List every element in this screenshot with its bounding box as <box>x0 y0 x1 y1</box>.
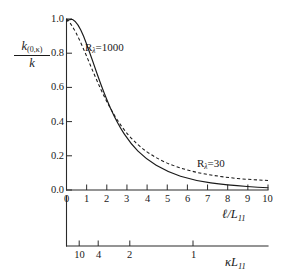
x-tick-label-10: 10 <box>258 194 277 205</box>
x-tick-label-8: 8 <box>219 194 236 205</box>
secondary-axis-ticks <box>79 241 193 247</box>
y-tick-label-1-0: 1.0 <box>38 14 64 25</box>
x-tick-label-4: 4 <box>139 194 156 205</box>
x-axis-title: ℓ/L11 <box>222 208 246 222</box>
x-tick-label-5: 5 <box>159 194 176 205</box>
x-tick-label-2: 2 <box>98 194 115 205</box>
secondary-tick-label-2: 2 <box>121 250 138 261</box>
y-axis-title: k(0,κ) k <box>10 40 54 70</box>
x-tick-label-1: 1 <box>78 194 95 205</box>
x-tick-label-9: 9 <box>239 194 256 205</box>
x-tick-label-6: 6 <box>179 194 196 205</box>
curve-annotation-rlambda-30: Rλ=30 <box>197 158 225 171</box>
secondary-axis-title: κL11 <box>225 256 246 270</box>
y-axis-title-denominator: k <box>10 56 54 70</box>
y-tick-label-0-2: 0.2 <box>38 151 64 162</box>
x-tick-label-0: 0 <box>58 194 75 205</box>
secondary-tick-label-10: 10 <box>70 250 89 261</box>
x-tick-label-3: 3 <box>118 194 135 205</box>
secondary-tick-label-1: 1 <box>185 250 202 261</box>
y-tick-label-0-6: 0.6 <box>38 82 64 93</box>
y-axis-ticks <box>67 19 73 190</box>
figure-root: 1.0 0.8 0.6 0.4 0.2 0.0 0 1 2 3 4 5 6 7 … <box>0 0 289 279</box>
y-axis-title-numerator: k(0,κ) <box>10 40 54 55</box>
secondary-tick-label-4: 4 <box>90 250 107 261</box>
curve-annotation-rlambda-1000: Rλ=1000 <box>85 42 124 55</box>
y-tick-label-0-4: 0.4 <box>38 117 64 128</box>
x-tick-label-7: 7 <box>199 194 216 205</box>
